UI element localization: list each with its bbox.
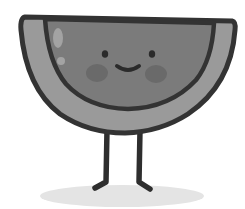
left-cheek (86, 64, 108, 82)
highlight-large (53, 28, 63, 48)
right-leg (139, 130, 150, 189)
watermelon-character (0, 0, 245, 209)
right-eye (149, 50, 155, 58)
right-cheek (145, 65, 167, 83)
left-leg (95, 130, 107, 188)
ground-shadow (40, 185, 204, 207)
highlight-small (57, 57, 65, 65)
illustration (0, 0, 245, 209)
left-eye (102, 50, 108, 58)
